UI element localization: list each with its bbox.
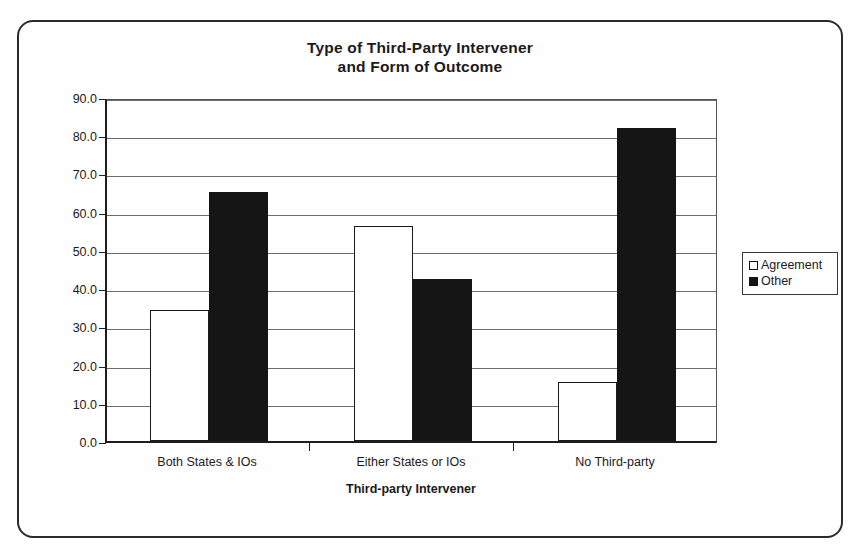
chart-title-line-1: Type of Third-Party Intervener [120,38,720,57]
y-tick-label-80.0: 80.0 [37,131,97,143]
filled-square-icon [749,277,758,286]
bar-other-1 [413,279,472,441]
y-tick-label-50.0: 50.0 [37,246,97,258]
x-axis-title: Third-party Intervener [105,482,717,496]
chart-legend: AgreementOther [742,252,838,295]
legend-item-agreement: Agreement [749,257,832,273]
chart-figure: Type of Third-Party Intervener and Form … [0,0,858,555]
legend-label-agreement: Agreement [761,257,822,273]
gridline-90.0 [107,100,716,101]
y-tick-label-0.0: 0.0 [37,437,97,449]
plot-area [105,99,717,443]
x-tick-mark-1 [309,443,310,451]
bar-other-2 [617,128,676,441]
legend-label-other: Other [761,273,792,289]
y-tick-label-20.0: 20.0 [37,361,97,373]
y-tick-label-10.0: 10.0 [37,399,97,411]
y-tick-label-30.0: 30.0 [37,322,97,334]
chart-title: Type of Third-Party Intervener and Form … [120,38,720,76]
open-square-icon [749,261,758,270]
x-category-label-2: No Third-party [515,455,715,469]
x-category-label-1: Either States or IOs [311,455,511,469]
y-tick-mark-0.0 [99,443,106,444]
legend-item-other: Other [749,273,832,289]
bar-agreement-2 [558,382,617,441]
x-tick-mark-2 [513,443,514,451]
y-tick-label-40.0: 40.0 [37,284,97,296]
y-tick-label-70.0: 70.0 [37,169,97,181]
y-tick-label-60.0: 60.0 [37,208,97,220]
x-category-label-0: Both States & IOs [107,455,307,469]
bar-agreement-1 [354,226,413,441]
chart-title-line-2: and Form of Outcome [120,57,720,76]
y-tick-label-90.0: 90.0 [37,93,97,105]
bar-agreement-0 [150,310,209,441]
bar-other-0 [209,192,268,441]
